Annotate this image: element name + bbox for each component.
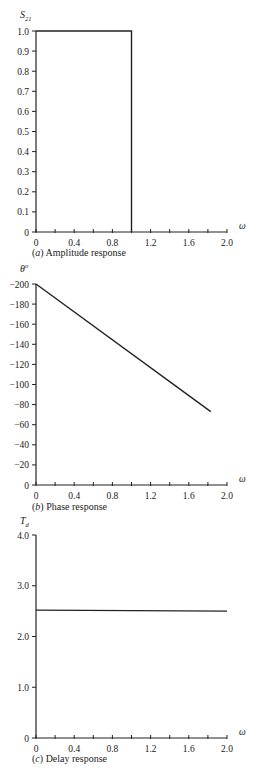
x-tick-label: 0.8: [106, 491, 118, 501]
y-axis-label: Td: [20, 515, 30, 528]
chart-panel-2: 0−20−40−60−80−100−120−140−160−180−20000.…: [9, 262, 246, 513]
y-axis-label: S21: [20, 9, 32, 22]
x-axis-label: ω: [239, 474, 246, 484]
x-axis-label: ω: [239, 727, 246, 737]
x-tick-label: 1.2: [145, 744, 157, 754]
x-tick-label: 2.0: [221, 491, 233, 501]
y-tick-label: 0.6: [17, 107, 29, 117]
x-tick-label: 1.6: [183, 238, 195, 248]
y-tick-label: 0.7: [17, 87, 29, 97]
y-tick-label: −200: [9, 280, 29, 290]
y-tick-label: −20: [14, 460, 29, 470]
chart-caption: (a) Amplitude response: [32, 247, 126, 259]
x-tick-label: 1.6: [183, 744, 195, 754]
y-axis-label: θo: [20, 262, 29, 274]
series-line: [36, 284, 211, 412]
y-tick-label: −140: [9, 340, 29, 350]
x-tick-label: 1.2: [145, 238, 157, 248]
y-tick-label: −100: [9, 380, 29, 390]
x-tick-label: 0.8: [106, 744, 118, 754]
chart-panel-3: 01.02.03.04.000.40.81.21.62.0ωTd(c) Dela…: [17, 515, 246, 765]
y-tick-label: 0.5: [17, 127, 29, 137]
y-tick-label: −80: [14, 400, 29, 410]
x-tick-label: 0.4: [68, 491, 80, 501]
y-tick-label: 1.0: [17, 27, 29, 37]
y-tick-label: 0.4: [17, 147, 29, 157]
chart-panel-1: 00.10.20.30.40.50.60.70.80.91.000.40.81.…: [17, 9, 246, 259]
y-tick-label: −160: [9, 320, 29, 330]
x-axis-label: ω: [239, 221, 246, 231]
y-tick-label: 0.1: [17, 207, 29, 217]
x-tick-label: 2.0: [221, 744, 233, 754]
y-tick-label: 0.8: [17, 67, 29, 77]
x-tick-label: 1.2: [145, 491, 157, 501]
y-tick-label: 0.2: [17, 187, 29, 197]
series-line: [36, 31, 132, 232]
y-tick-label: 4.0: [17, 531, 29, 541]
filter-response-charts: 00.10.20.30.40.50.60.70.80.91.000.40.81.…: [0, 0, 253, 770]
y-tick-label: −120: [9, 360, 29, 370]
y-tick-label: 1.0: [17, 683, 29, 693]
y-tick-label: 3.0: [17, 581, 29, 591]
y-tick-label: 0.9: [17, 47, 29, 57]
series-line: [36, 610, 227, 611]
x-tick-label: 1.6: [183, 491, 195, 501]
y-tick-label: 0.3: [17, 167, 29, 177]
chart-caption: (c) Delay response: [32, 753, 108, 765]
y-tick-label: 0: [24, 481, 29, 491]
x-tick-label: 0: [34, 491, 39, 501]
y-tick-label: −40: [14, 440, 29, 450]
x-tick-label: 2.0: [221, 238, 233, 248]
y-tick-label: −60: [14, 420, 29, 430]
y-tick-label: 0: [24, 734, 29, 744]
chart-caption: (b) Phase response: [32, 501, 108, 513]
y-tick-label: 0: [24, 228, 29, 238]
y-tick-label: −180: [9, 300, 29, 310]
y-tick-label: 2.0: [17, 632, 29, 642]
